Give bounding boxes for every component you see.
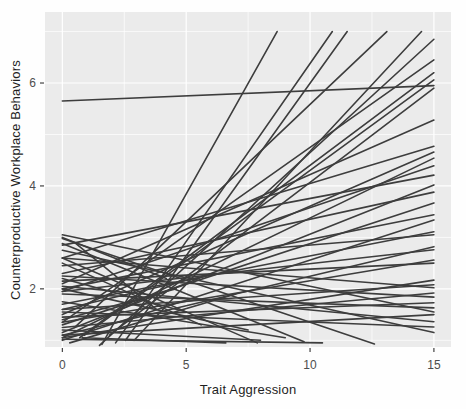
x-tick-label: 10: [303, 358, 317, 372]
plot-area: 051015246: [0, 0, 466, 409]
x-tick-label: 0: [59, 358, 66, 372]
y-tick-label: 6: [29, 76, 36, 90]
x-axis-title: Trait Aggression: [45, 382, 451, 397]
y-tick-label: 4: [29, 179, 36, 193]
x-tick-label: 15: [427, 358, 441, 372]
y-axis-title: Counterproductive Workplace Behaviors: [8, 60, 23, 300]
x-tick-label: 5: [183, 358, 190, 372]
chart-figure: 051015246 Trait Aggression Counterproduc…: [0, 0, 466, 409]
y-tick-label: 2: [29, 282, 36, 296]
